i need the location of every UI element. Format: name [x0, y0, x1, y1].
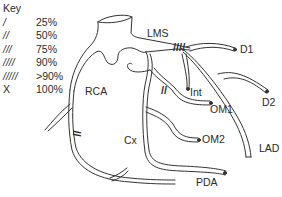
label-lad: LAD	[259, 143, 279, 154]
d2-tip	[266, 90, 269, 93]
coronary-tree	[0, 0, 282, 197]
aorta-left	[70, 22, 98, 90]
label-pda: PDA	[196, 177, 218, 188]
om2-tip	[198, 139, 201, 142]
lesion-mark-rca: //	[71, 130, 82, 136]
d1-vessel-inner	[190, 47, 234, 51]
lesion-mark-om1: //	[161, 85, 167, 96]
d1-tip	[234, 48, 237, 51]
int-vessel-inner	[186, 54, 189, 88]
label-int: Int	[190, 87, 202, 98]
label-cx: Cx	[124, 135, 137, 146]
d2-vessel	[218, 73, 268, 90]
rca-vessel	[69, 90, 175, 184]
int-vessel	[182, 54, 187, 88]
label-om1: OM1	[210, 104, 233, 115]
pda-tip	[224, 172, 227, 175]
om2-vessel-inner	[146, 107, 198, 138]
rca-distal-branch	[110, 168, 128, 181]
aorta-top	[98, 17, 132, 23]
om1-hook	[127, 63, 150, 72]
rca-marginal	[45, 104, 72, 131]
d2-vessel-inner	[224, 78, 266, 93]
label-d1: D1	[240, 44, 253, 55]
label-om2: OM2	[202, 134, 225, 145]
label-d2: D2	[262, 97, 275, 108]
label-rca: RCA	[85, 86, 107, 97]
lesion-mark-lms: ////	[173, 42, 185, 53]
label-lms: LMS	[147, 28, 169, 39]
